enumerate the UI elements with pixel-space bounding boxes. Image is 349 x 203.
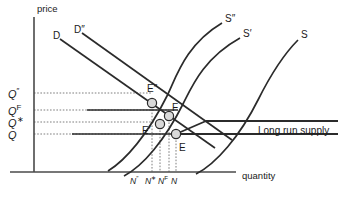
price-tick-base: Q: [8, 129, 17, 141]
price-tick-sup: ″: [17, 86, 20, 95]
price-tick-q-plain: Q: [8, 128, 17, 141]
supply-curve-label-s: S: [301, 30, 308, 40]
price-tick-base: Q: [8, 117, 17, 129]
node-e-double-prime[interactable]: [147, 98, 156, 107]
supply-curve-label-s-double-prime: S″: [225, 14, 235, 24]
axes-group: [10, 17, 236, 172]
equilibrium-label-e-double-prime: E″: [147, 84, 157, 94]
node-e[interactable]: [171, 129, 180, 138]
diagram-canvas: price quantity Q″ QF Q∗ Q N″ N∗ NF N D D…: [0, 0, 349, 203]
y-axis-label: price: [37, 4, 58, 14]
quantity-tick-n-double-prime: N″: [130, 175, 138, 185]
demand-curve-label-d-double-prime: D″: [74, 25, 85, 35]
price-tick-q-double-prime: Q″: [8, 87, 19, 100]
quantity-tick-sup: ″: [136, 174, 138, 181]
equilibrium-label-e: E: [179, 143, 186, 153]
quantity-tick-sup: F: [164, 174, 168, 181]
price-tick-q-star: Q∗: [8, 116, 24, 129]
quantity-tick-n-plain: N: [171, 175, 177, 185]
demand-curve-d: [60, 39, 215, 148]
long-run-supply-label: Long run supply: [258, 126, 329, 136]
equilibrium-label-f: F: [172, 103, 178, 113]
supply-curve-s-double-prime: [108, 23, 222, 171]
node-e-prime[interactable]: [155, 119, 164, 128]
quantity-tick-n-star: N∗: [145, 175, 156, 185]
supply-curve-label-s-prime: S′: [243, 29, 252, 39]
supply-curve-s-prime: [124, 38, 240, 176]
equilibrium-label-e-prime: E′: [142, 126, 151, 136]
price-tick-sup: ∗: [17, 115, 24, 124]
quantity-tick-base: N: [171, 176, 177, 186]
supply-curves-group: [108, 23, 298, 176]
quantity-tick-n-f: NF: [158, 175, 168, 185]
price-tick-base: Q: [8, 88, 17, 100]
price-tick-sup: F: [17, 103, 22, 112]
quantity-tick-sup: ∗: [151, 174, 156, 181]
price-tick-base: Q: [8, 105, 17, 117]
x-axis-label: quantity: [242, 171, 275, 181]
demand-curve-label-d: D: [53, 31, 60, 41]
